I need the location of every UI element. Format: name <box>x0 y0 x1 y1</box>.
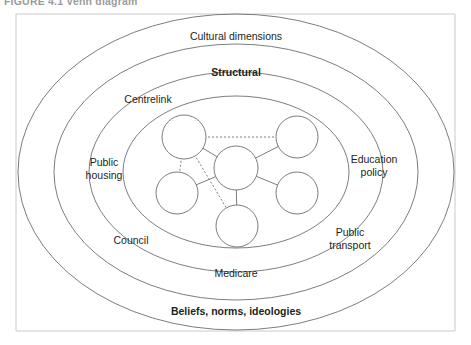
ring-label-public-housing: Public housing <box>86 156 123 181</box>
ring-label-centrelink: Centrelink <box>124 93 171 106</box>
network-nodes <box>156 115 318 247</box>
ring-label-beliefs-norms: Beliefs, norms, ideologies <box>171 305 301 318</box>
venn-network-diagram <box>0 0 471 345</box>
node-top-left[interactable] <box>162 115 206 159</box>
figure-container: FIGURE 4.1 Venn diagram <box>0 0 471 345</box>
ring-label-cultural-dimensions: Cultural dimensions <box>190 30 282 43</box>
ring-label-education-policy: Education policy <box>351 153 398 178</box>
node-bottom[interactable] <box>216 205 258 247</box>
node-top-right[interactable] <box>276 116 318 158</box>
ring-label-medicare: Medicare <box>214 267 257 280</box>
ring-label-structural: Structural <box>211 66 261 79</box>
ring-label-council: Council <box>113 234 148 247</box>
ring-label-public-transport: Public transport <box>329 226 370 251</box>
node-mid-left[interactable] <box>156 172 198 214</box>
node-center[interactable] <box>214 146 258 190</box>
node-mid-right[interactable] <box>276 172 318 214</box>
